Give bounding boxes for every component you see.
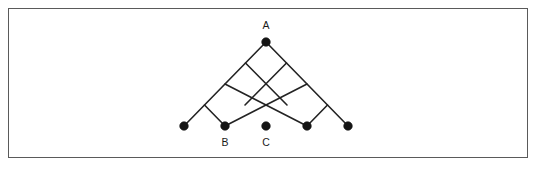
lattice-node xyxy=(303,122,312,131)
lattice-node xyxy=(180,122,189,131)
lattice-node-a xyxy=(262,38,271,47)
lattice-node xyxy=(344,122,353,131)
node-label-c: C xyxy=(262,136,270,148)
node-label-b: B xyxy=(221,136,228,148)
lattice-node-b xyxy=(221,122,230,131)
lattice-node-c xyxy=(262,122,271,131)
node-label-a: A xyxy=(262,19,269,31)
figure-container: ABC xyxy=(0,0,536,169)
lattice-diagram-svg: ABC xyxy=(0,0,536,169)
